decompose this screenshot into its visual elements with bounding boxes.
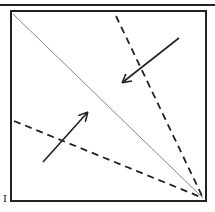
upper-arrow-icon: [123, 38, 179, 82]
upper-dashed-fold-line: [116, 16, 203, 198]
fold-diagram: [0, 0, 215, 212]
figure-label: I: [3, 193, 7, 204]
lower-arrow-icon: [43, 113, 87, 162]
lower-dashed-fold-line: [14, 121, 203, 198]
